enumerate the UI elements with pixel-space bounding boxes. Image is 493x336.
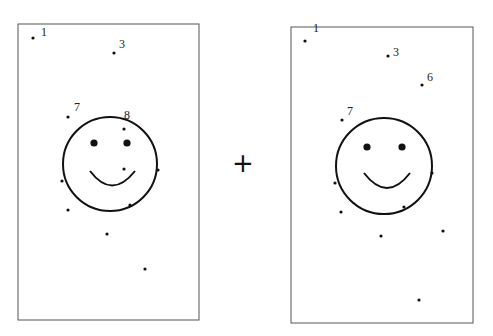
smiley-eye	[123, 139, 130, 146]
panel-frame	[18, 24, 199, 320]
labeled-point	[31, 36, 34, 39]
point	[128, 203, 131, 206]
labeled-point	[112, 51, 115, 54]
point-label: 3	[119, 37, 125, 51]
point	[105, 232, 108, 235]
point	[417, 298, 420, 301]
point-label: 1	[313, 21, 319, 35]
point	[430, 171, 433, 174]
point	[379, 234, 382, 237]
smiley-mouth	[364, 173, 410, 188]
point	[143, 267, 146, 270]
plus-operator: +	[232, 148, 254, 178]
labeled-point	[386, 54, 389, 57]
right-panel: 1367	[291, 21, 473, 323]
point-label: 1	[41, 25, 47, 39]
point	[60, 179, 63, 182]
point-label: 8	[124, 108, 130, 122]
left-panel: 1378	[18, 24, 199, 320]
smiley-eye	[90, 139, 97, 146]
smiley-face-outline	[336, 118, 432, 214]
smiley-mouth	[90, 171, 135, 186]
point	[402, 205, 405, 208]
point-label: 6	[427, 70, 433, 84]
point	[122, 167, 125, 170]
smiley-eye	[363, 143, 370, 150]
labeled-point	[303, 39, 306, 42]
point-label: 7	[347, 104, 353, 118]
labeled-point	[66, 115, 69, 118]
smiley-eye	[398, 143, 405, 150]
diagram-canvas: 1378 + 1367	[0, 0, 493, 336]
point	[441, 229, 444, 232]
point-label: 7	[74, 100, 80, 114]
point	[156, 168, 159, 171]
labeled-point	[420, 83, 423, 86]
labeled-point	[340, 118, 343, 121]
point	[339, 210, 342, 213]
point-label: 3	[393, 45, 399, 59]
labeled-point	[122, 127, 125, 130]
smiley-face-outline	[63, 117, 157, 211]
panel-frame	[291, 27, 473, 323]
point	[333, 181, 336, 184]
point	[66, 208, 69, 211]
